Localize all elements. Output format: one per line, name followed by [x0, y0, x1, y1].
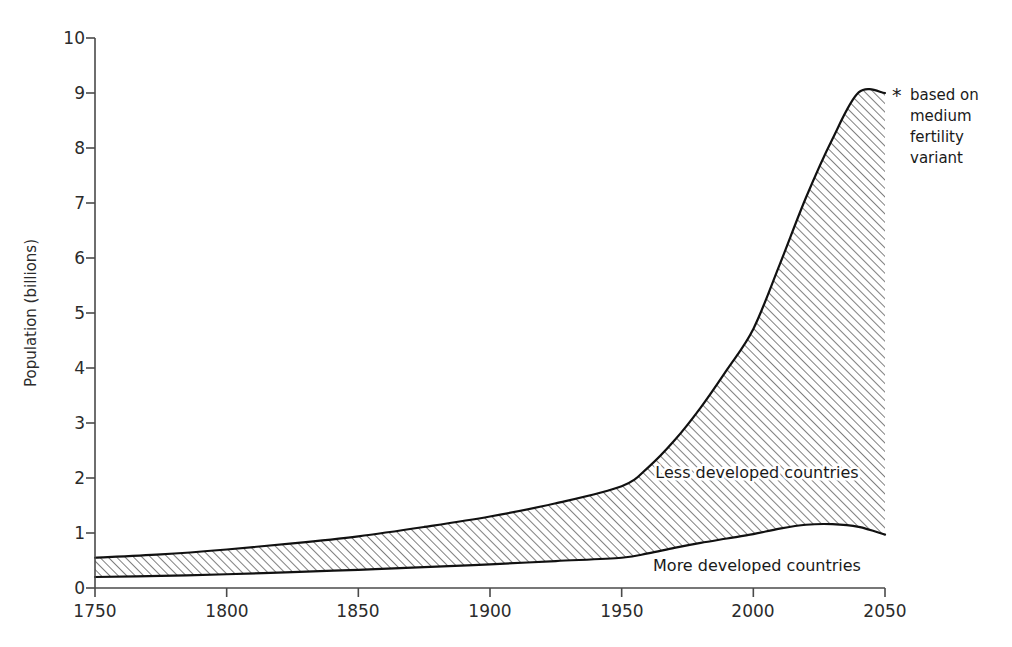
y-tick-4: 4 [74, 358, 85, 378]
y-tick-7: 7 [74, 193, 85, 213]
x-tick-2000: 2000 [731, 601, 774, 621]
y-tick-2: 2 [74, 468, 85, 488]
less-developed-area [95, 89, 885, 577]
y-tick-9: 9 [74, 83, 85, 103]
x-tick-2050: 2050 [863, 601, 906, 621]
less-developed-label: Less developed countries [655, 463, 858, 482]
x-tick-1750: 1750 [73, 601, 116, 621]
x-tick-marks [95, 588, 885, 597]
y-tick-marks [86, 38, 95, 588]
x-tick-1850: 1850 [336, 601, 379, 621]
footnote-annotation: * based on medium fertility variant [892, 84, 979, 167]
footnote-line-2: medium [910, 107, 972, 125]
footnote-star: * [892, 84, 902, 106]
chart-figure: 10 9 8 7 6 5 4 3 2 1 0 1750 1800 1850 19… [0, 0, 1012, 647]
y-tick-6: 6 [74, 248, 85, 268]
y-tick-3: 3 [74, 413, 85, 433]
x-tick-labels: 1750 1800 1850 1900 1950 2000 2050 [73, 601, 906, 621]
x-tick-1900: 1900 [468, 601, 511, 621]
footnote-line-3: fertility [910, 128, 964, 146]
y-tick-10: 10 [63, 28, 85, 48]
population-growth-chart: 10 9 8 7 6 5 4 3 2 1 0 1750 1800 1850 19… [0, 0, 1012, 647]
footnote-line-1: based on [910, 86, 979, 104]
y-tick-0: 0 [74, 578, 85, 598]
y-tick-8: 8 [74, 138, 85, 158]
more-developed-label: More developed countries [653, 556, 861, 575]
y-axis-title: Population (billions) [22, 239, 40, 387]
y-tick-5: 5 [74, 303, 85, 323]
footnote-line-4: variant [910, 149, 963, 167]
x-tick-1950: 1950 [600, 601, 643, 621]
y-tick-1: 1 [74, 523, 85, 543]
x-tick-1800: 1800 [205, 601, 248, 621]
y-tick-labels: 10 9 8 7 6 5 4 3 2 1 0 [63, 28, 85, 598]
